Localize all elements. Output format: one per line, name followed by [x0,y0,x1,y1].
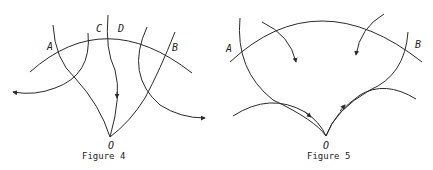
fig5-label-b: B [415,39,421,50]
fig5-curve-b [326,32,408,136]
fig4-label-b: B [172,42,178,53]
fig4-label-o: O [108,140,114,151]
fig4-label-c: C [96,23,102,34]
fig5-label-o: O [323,140,329,151]
fig5-arrow-right [356,14,384,55]
fig4-caption: Figure 4 [82,151,125,161]
fig5-arrow-ll [305,112,311,117]
figure-4: A C D B O Figure 4 [13,15,205,161]
fig4-label-a: A [46,41,53,52]
fig4-label-d: D [117,23,124,34]
fig5-main-arc [230,21,422,62]
fig5-lower-right-arc [326,88,416,136]
fig4-curve-b [110,32,175,137]
fig5-label-a: A [225,43,232,54]
figure-5: A B O Figure 5 [225,14,422,161]
fig4-main-arc [30,39,192,73]
fig5-lower-left-arc [233,103,326,136]
fig4-curve-d [107,15,117,137]
fig5-arrow-left [262,22,296,62]
diagram-canvas: A C D B O Figure 4 A B O Figure 5 [0,0,433,170]
fig5-caption: Figure 5 [307,151,350,161]
